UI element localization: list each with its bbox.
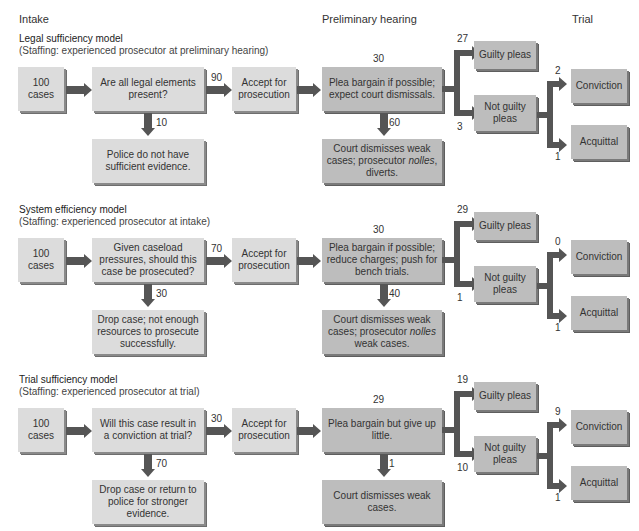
reject-count: 10 <box>156 117 167 128</box>
guilty-pleas-box: Guilty pleas <box>474 212 536 240</box>
not-guilty-pleas-box: Not guilty pleas <box>474 436 536 472</box>
start-cases-box: 100 cases <box>18 67 64 111</box>
conviction-count: 2 <box>555 65 561 76</box>
decision-box: Are all legal elements present? <box>92 67 204 111</box>
accept-prosecution-box: Accept for prosecution <box>232 408 296 452</box>
model-staffing: (Staffing: experienced prosecutor at tri… <box>19 386 199 397</box>
column-heading-trial: Trial <box>572 13 593 25</box>
arrow-right-icon <box>297 254 323 268</box>
model-title: System efficiency model <box>19 204 127 215</box>
model-staffing: (Staffing: experienced prosecutor at pre… <box>19 45 268 56</box>
arrow-down-icon <box>141 113 155 137</box>
plea-count: 29 <box>373 394 384 405</box>
plea-bargain-box: Plea bargain if possible; reduce charges… <box>322 238 442 282</box>
arrow-right-icon <box>206 424 234 438</box>
court-dismisses-box: Court dismisses weak cases. <box>322 480 442 524</box>
conviction-count: 9 <box>555 406 561 417</box>
dismiss-text: Court dismisses weak cases. <box>326 490 438 514</box>
arrow-right-icon <box>297 424 323 438</box>
arrow-right-icon <box>297 83 323 97</box>
model-title: Trial sufficiency model <box>19 374 117 385</box>
plea-count: 30 <box>373 53 384 64</box>
guilty-count: 19 <box>457 374 468 385</box>
acquittal-count: 1 <box>555 322 561 333</box>
start-cases-box: 100 cases <box>18 238 64 282</box>
column-heading-preliminary-hearing: Preliminary hearing <box>322 13 417 25</box>
fork-arrow-icon <box>537 71 569 151</box>
start-cases-box: 100 cases <box>18 408 64 452</box>
decision-box: Will this case result in a conviction at… <box>92 408 204 452</box>
conviction-box: Conviction <box>571 410 627 444</box>
fork-arrow-icon <box>537 242 569 322</box>
dismiss-count: 40 <box>389 288 400 299</box>
acquittal-count: 1 <box>555 151 561 162</box>
conviction-box: Conviction <box>571 69 627 103</box>
notguilty-count: 10 <box>457 462 468 473</box>
guilty-count: 29 <box>457 204 468 215</box>
accept-count: 90 <box>211 72 222 83</box>
accept-count: 70 <box>211 243 222 254</box>
arrow-down-icon <box>141 454 155 478</box>
plea-count: 30 <box>373 224 384 235</box>
reject-outcome-box: Drop case or return to police for strong… <box>92 480 204 524</box>
dismiss-text: Court dismisses weak cases; prosecutor n… <box>326 314 438 350</box>
dismiss-count: 1 <box>389 458 395 469</box>
reject-count: 70 <box>156 458 167 469</box>
accept-prosecution-box: Accept for prosecution <box>232 238 296 282</box>
accept-prosecution-box: Accept for prosecution <box>232 67 296 111</box>
not-guilty-pleas-box: Not guilty pleas <box>474 95 536 131</box>
reject-outcome-box: Police do not have sufficient evidence. <box>92 139 204 183</box>
dismiss-count: 60 <box>389 117 400 128</box>
plea-bargain-box: Plea bargain if possible; expect court d… <box>322 67 442 111</box>
acquittal-box: Acquittal <box>571 466 627 500</box>
guilty-count: 27 <box>457 33 468 44</box>
arrow-right-icon <box>66 254 94 268</box>
arrow-right-icon <box>206 83 234 97</box>
court-dismisses-box: Court dismisses weak cases; prosecutor n… <box>322 139 442 183</box>
arrow-right-icon <box>66 424 94 438</box>
guilty-pleas-box: Guilty pleas <box>474 41 536 69</box>
model-staffing: (Staffing: experienced prosecutor at int… <box>19 216 210 227</box>
conviction-box: Conviction <box>571 240 627 274</box>
accept-count: 30 <box>211 413 222 424</box>
model-title: Legal sufficiency model <box>19 33 123 44</box>
reject-count: 30 <box>156 288 167 299</box>
guilty-pleas-box: Guilty pleas <box>474 382 536 410</box>
column-heading-intake: Intake <box>19 13 49 25</box>
fork-arrow-icon <box>537 412 569 492</box>
not-guilty-pleas-box: Not guilty pleas <box>474 266 536 302</box>
notguilty-count: 3 <box>457 121 463 132</box>
notguilty-count: 1 <box>457 292 463 303</box>
arrow-right-icon <box>66 83 94 97</box>
arrow-right-icon <box>206 254 234 268</box>
court-dismisses-box: Court dismisses weak cases; prosecutor n… <box>322 310 442 354</box>
plea-bargain-box: Plea bargain but give up little. <box>322 408 442 452</box>
acquittal-box: Acquittal <box>571 125 627 159</box>
dismiss-text: Court dismisses weak cases; prosecutor n… <box>326 143 438 179</box>
acquittal-count: 1 <box>555 492 561 503</box>
reject-outcome-box: Drop case; not enough resources to prose… <box>92 310 204 354</box>
acquittal-box: Acquittal <box>571 296 627 330</box>
decision-box: Given caseload pressures, should this ca… <box>92 238 204 282</box>
arrow-down-icon <box>141 284 155 308</box>
conviction-count: 0 <box>555 236 561 247</box>
